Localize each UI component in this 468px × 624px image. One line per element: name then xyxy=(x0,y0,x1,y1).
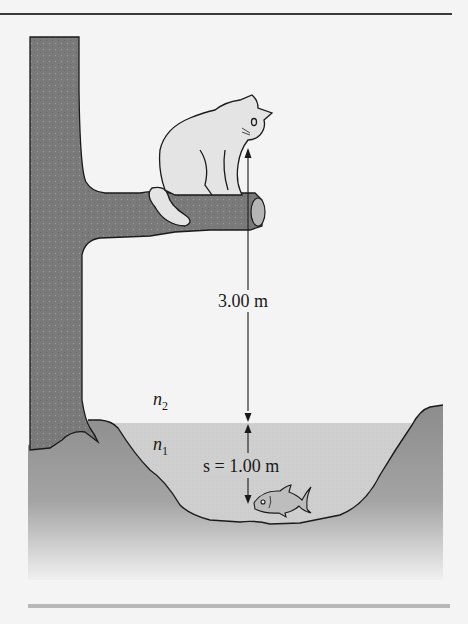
n1-symbol: n xyxy=(153,434,162,454)
n1-subscript: 1 xyxy=(162,444,168,458)
height-arrow xyxy=(245,148,252,422)
height-label: 3.00 m xyxy=(218,292,268,310)
diagram-graphics xyxy=(0,0,468,624)
medium-below-label: n1 xyxy=(153,435,168,453)
depth-label: s = 1.00 m xyxy=(201,457,281,475)
tree xyxy=(30,37,265,450)
bottom-rule xyxy=(28,604,450,608)
n2-symbol: n xyxy=(153,389,162,409)
diagram: 3.00 m n2 n1 s = 1.00 m xyxy=(0,0,468,624)
medium-above-label: n2 xyxy=(153,390,168,408)
n2-subscript: 2 xyxy=(162,399,168,413)
